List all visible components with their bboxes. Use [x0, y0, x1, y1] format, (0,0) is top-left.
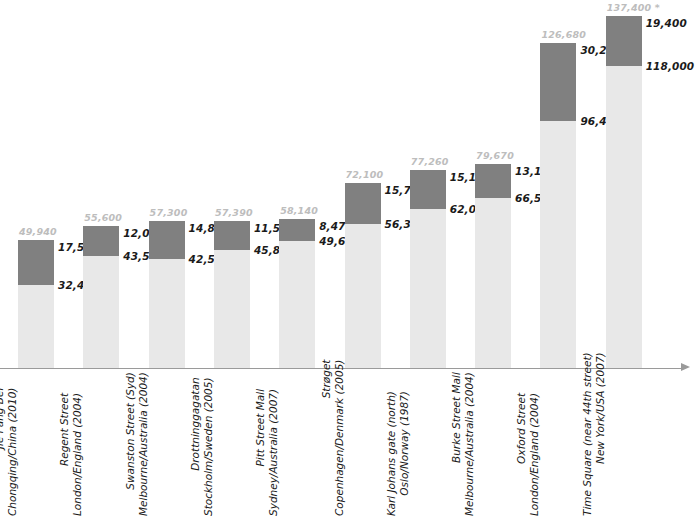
bar-segment-lower[interactable] [475, 198, 511, 368]
x-axis-label-line1: Drottninggagatan [189, 377, 202, 516]
bar-total-label: 72,100 [346, 170, 384, 180]
bar-segment-upper[interactable] [410, 170, 446, 209]
x-axis-label-line2: Melbourne/Australia (2004) [137, 372, 150, 516]
x-axis-label-line1: Time Square (near 44th street) [581, 352, 594, 516]
bar-segment-upper[interactable] [279, 219, 315, 241]
bar-segment-upper[interactable] [475, 164, 511, 198]
x-axis-label-line1: Strøget [320, 360, 333, 516]
bar-segment-lower[interactable] [83, 256, 119, 368]
bar-total-label: 55,600 [84, 213, 122, 223]
bar-segment-lower[interactable] [345, 224, 381, 368]
x-axis-arrow-icon [681, 363, 690, 371]
x-axis-label: DrottninggagatanStockholm/Sweden (2005) [215, 376, 229, 516]
x-axis-label: Karl Johans gate (north)Oslo/Norway (198… [411, 376, 425, 516]
bar-segment-upper[interactable] [18, 240, 54, 285]
bar-segment-upper[interactable] [540, 43, 576, 120]
x-axis-label-line1: Oxford Street [515, 393, 528, 516]
x-axis-label-line1: Karl Johans gate (north) [385, 391, 398, 516]
bar-total-label: 77,260 [411, 157, 449, 167]
x-axis-label: StrøgetCopenhagen/Denmark (2005) [346, 376, 360, 516]
x-axis-label-line1: Swanston Street (Syd) [124, 372, 137, 516]
bar-group[interactable] [18, 240, 54, 368]
bar-total-label: 126,680 [541, 30, 586, 40]
x-axis-label-line1: Regent Street [58, 393, 71, 516]
bar-segment-lower[interactable] [279, 241, 315, 368]
bar-group[interactable] [410, 170, 446, 368]
x-axis-label: Regent StreetLondon/England (2004) [84, 376, 98, 516]
bar-upper-value-label: 19,400 [646, 18, 687, 29]
bar-segment-lower[interactable] [18, 285, 54, 368]
x-axis-label-line1: Pitt Street Mall [254, 389, 267, 516]
plot-area: 49,94017,54032,40055,60012,05043,55057,3… [0, 0, 699, 369]
x-axis-label: Swanston Street (Syd)Melbourne/Australia… [150, 376, 164, 516]
x-axis-label-line2: Copenhagen/Denmark (2005) [333, 360, 346, 516]
x-axis-label-line2: Oslo/Norway (1987) [398, 391, 411, 516]
bar-group[interactable] [606, 16, 642, 368]
bar-lower-value-label: 118,000 [646, 61, 695, 72]
bar-segment-upper[interactable] [345, 183, 381, 223]
x-axis-label: Burke Street MallMelbourne/Australia (20… [476, 376, 490, 516]
bar-group[interactable] [540, 43, 576, 368]
bar-group[interactable] [83, 226, 119, 368]
x-axis-label-line2: Melbourne/Australia (2004) [463, 372, 476, 516]
bar-total-label: 49,940 [19, 227, 57, 237]
bar-total-label: 57,390 [215, 208, 253, 218]
stacked-bar-chart: 49,94017,54032,40055,60012,05043,55057,3… [0, 0, 699, 518]
x-axis-label: Time Square (near 44th street)New York/U… [607, 376, 621, 516]
x-axis-label-line2: Chongqing/China (2010) [6, 388, 19, 516]
x-axis-label-line2: London/England (2004) [71, 393, 84, 516]
x-axis-label: Oxford StreetLondon/England (2004) [541, 376, 555, 516]
bar-total-label: 58,140 [280, 206, 318, 216]
bar-segment-lower[interactable] [214, 250, 250, 368]
x-axis-label-line2: New York/USA (2007) [594, 352, 607, 516]
bar-segment-lower[interactable] [540, 121, 576, 368]
x-axis-label-line1: Burke Street Mall [450, 372, 463, 516]
x-axis-label-line2: London/England (2004) [528, 393, 541, 516]
bar-total-label: 57,300 [150, 208, 188, 218]
bar-group[interactable] [345, 183, 381, 368]
bar-segment-upper[interactable] [83, 226, 119, 257]
x-axis-label: Jie Fang BeiChongqing/China (2010) [19, 376, 33, 516]
bar-segment-upper[interactable] [606, 16, 642, 66]
bar-segment-upper[interactable] [149, 221, 185, 259]
bar-total-label: 137,400 * [607, 3, 660, 13]
bar-group[interactable] [214, 221, 250, 368]
bar-total-label: 79,670 [476, 151, 514, 161]
bar-segment-lower[interactable] [410, 209, 446, 368]
bar-group[interactable] [279, 219, 315, 368]
bar-group[interactable] [475, 164, 511, 368]
bar-segment-lower[interactable] [606, 66, 642, 368]
bar-segment-lower[interactable] [149, 259, 185, 368]
bar-segment-upper[interactable] [214, 221, 250, 250]
x-axis-label-line2: Sydney/Australia (2007) [267, 389, 280, 516]
x-axis-label: Pitt Street MallSydney/Australia (2007) [280, 376, 294, 516]
bar-group[interactable] [149, 221, 185, 368]
x-axis-label-line2: Stockholm/Sweden (2005) [202, 377, 215, 516]
